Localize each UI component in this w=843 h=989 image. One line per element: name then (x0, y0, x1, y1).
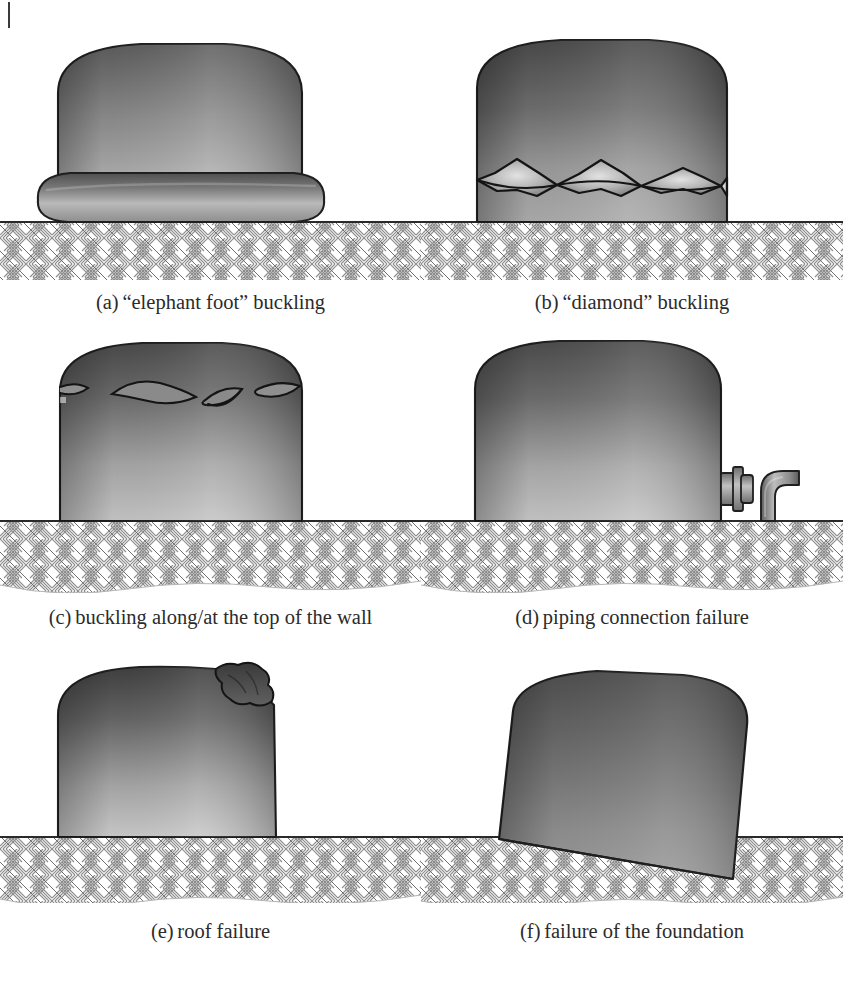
caption-label-e: (e) (151, 920, 174, 942)
ground-b (421, 222, 843, 280)
scene-svg-a (0, 30, 421, 280)
figure-panel-a: (a)“elephant foot” buckling (0, 26, 421, 331)
figure-panel-c: (c)buckling along/at the top of the wall (0, 331, 421, 641)
figure-panel-f: (f)failure of the foundation (421, 641, 843, 984)
caption-text-b: “diamond” buckling (562, 291, 729, 313)
illustration-piping-connection-failure (421, 331, 843, 593)
caption-c: (c)buckling along/at the top of the wall (0, 605, 421, 630)
scene-svg-d (421, 331, 843, 593)
ground-c (0, 521, 421, 593)
tank-shell-b (477, 40, 727, 222)
caption-text-c: buckling along/at the top of the wall (75, 606, 372, 628)
illustration-elephant-foot-buckling (0, 30, 421, 280)
figure-panel-e: (e)roof failure (0, 641, 421, 984)
caption-label-d: (d) (515, 606, 539, 628)
caption-f: (f)failure of the foundation (421, 919, 843, 944)
figure-panel-b: (b)“diamond” buckling (421, 26, 843, 331)
caption-text-f: failure of the foundation (544, 920, 744, 942)
figure-panel-d: (d)piping connection failure (421, 331, 843, 641)
scene-svg-c (0, 331, 421, 593)
tank-shell-d (475, 341, 721, 521)
scene-svg-e (0, 641, 421, 903)
scene-svg-f (421, 641, 843, 903)
caption-d: (d)piping connection failure (421, 605, 843, 630)
running-head (26, 0, 326, 14)
page-edge-rule (8, 2, 10, 28)
illustration-diamond-buckling (421, 30, 843, 280)
illustration-roof-failure (0, 641, 421, 903)
caption-label-c: (c) (49, 606, 72, 628)
ground-d (421, 521, 843, 593)
caption-text-e: roof failure (177, 920, 270, 942)
scene-svg-b (421, 30, 843, 280)
caption-label-b: (b) (535, 291, 559, 313)
caption-b: (b)“diamond” buckling (421, 290, 843, 315)
illustration-foundation-failure (421, 641, 843, 903)
caption-text-a: “elephant foot” buckling (122, 291, 325, 313)
elephant-foot-bulge (38, 173, 324, 222)
caption-label-a: (a) (96, 291, 119, 313)
caption-label-f: (f) (520, 920, 540, 942)
caption-e: (e)roof failure (0, 919, 421, 944)
figure-grid: (a)“elephant foot” buckling (0, 26, 843, 984)
tank-shell-c (60, 343, 302, 521)
ground-e (0, 837, 421, 903)
caption-text-d: piping connection failure (543, 606, 749, 628)
detached-elbow-pipe (761, 471, 799, 521)
nozzle-flange (721, 467, 753, 511)
ground-a (0, 222, 421, 280)
illustration-top-of-wall-buckling (0, 331, 421, 593)
caption-a: (a)“elephant foot” buckling (0, 290, 421, 315)
